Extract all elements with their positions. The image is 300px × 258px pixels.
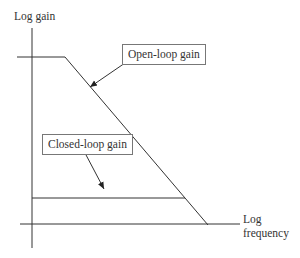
open-loop-gain-label: Open-loop gain [122,44,206,65]
y-axis-label: Log gain [14,10,55,23]
open-loop-arrow [90,63,125,87]
x-axis-label-line1: Log [243,213,262,226]
closed-loop-gain-label: Closed-loop gain [42,134,133,155]
x-axis-label-line2: frequency [243,227,289,240]
gain-frequency-diagram: Log gain Log frequency Open-loop gain Cl… [0,0,300,258]
closed-loop-arrow [85,153,104,189]
